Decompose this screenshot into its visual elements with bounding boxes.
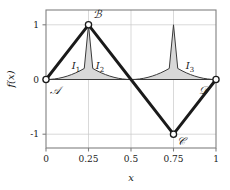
region-label-I2: I2 [96,60,104,74]
x-tick-label-0.5: 0.5 [124,154,138,164]
y-axis-label: f(x) [5,70,16,87]
region-label-I3: I3 [186,60,194,74]
x-tick-label-0.75: 0.75 [163,154,183,164]
point-label-C: 𝒞 [177,135,185,148]
point-label-B: ℬ [93,8,102,21]
x-tick-label-0.25: 0.25 [78,154,98,164]
region-label-I1-sub: 1 [76,66,80,74]
y-tick-label-minus-1: -1 [24,129,39,139]
x-tick-label-1: 1 [213,154,219,164]
y-tick-label-1: 1 [28,20,39,30]
x-axis-label: x [128,172,134,183]
x-tick-label-0: 0 [43,154,49,164]
region-label-I2-sub: 2 [100,66,104,74]
point-marker-A [43,76,49,82]
point-marker-C [170,131,176,137]
region-label-I1: I1 [72,60,80,74]
y-tick-label-0: 0 [28,75,39,85]
point-label-D: 𝒟 [199,84,208,97]
region-label-I3-sub: 3 [190,66,194,74]
figure-container: 1 0 -1 0 0.25 0.5 0.75 1 x f(x) 𝒜 ℬ 𝒞 𝒟 … [0,0,230,190]
point-marker-B [85,22,91,28]
point-marker-D [213,76,219,82]
point-label-A: 𝒜 [50,84,60,97]
